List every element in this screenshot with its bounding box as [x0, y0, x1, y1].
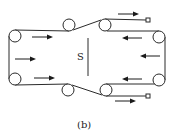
roller-right-top	[153, 31, 165, 43]
roller-bottom-mid	[62, 84, 74, 96]
bottom-left-belt	[15, 84, 68, 85]
arrow-right-icon	[34, 76, 55, 81]
center-label: S	[77, 51, 84, 62]
arrow-left-icon	[122, 36, 142, 41]
figure-caption: (b)	[77, 119, 91, 130]
top-left-belt	[15, 30, 69, 31]
arrow-right-icon	[32, 35, 53, 40]
belt-diagram: S (b)	[0, 0, 174, 138]
top-feed-line	[105, 19, 146, 20]
arrow-right-icon	[115, 99, 136, 104]
belt-lines	[9, 19, 165, 96]
roller-left-top	[9, 30, 21, 42]
arrow-right-icon	[118, 12, 139, 17]
roller-top-mid	[63, 19, 75, 31]
arrow-right-icon	[15, 57, 36, 62]
end-marker-bottom	[146, 94, 150, 98]
arrow-left-icon	[122, 77, 142, 82]
arrow-left-icon	[140, 54, 160, 59]
roller-bottom-right-mid	[100, 84, 112, 96]
bottom-diagonal-belt	[72, 85, 102, 95]
top-diagonal-belt	[73, 20, 101, 30]
roller-right-bottom	[153, 74, 165, 86]
end-marker-top	[146, 18, 150, 22]
roller-left-bottom	[9, 73, 21, 85]
roller-top-right-mid	[99, 19, 111, 31]
